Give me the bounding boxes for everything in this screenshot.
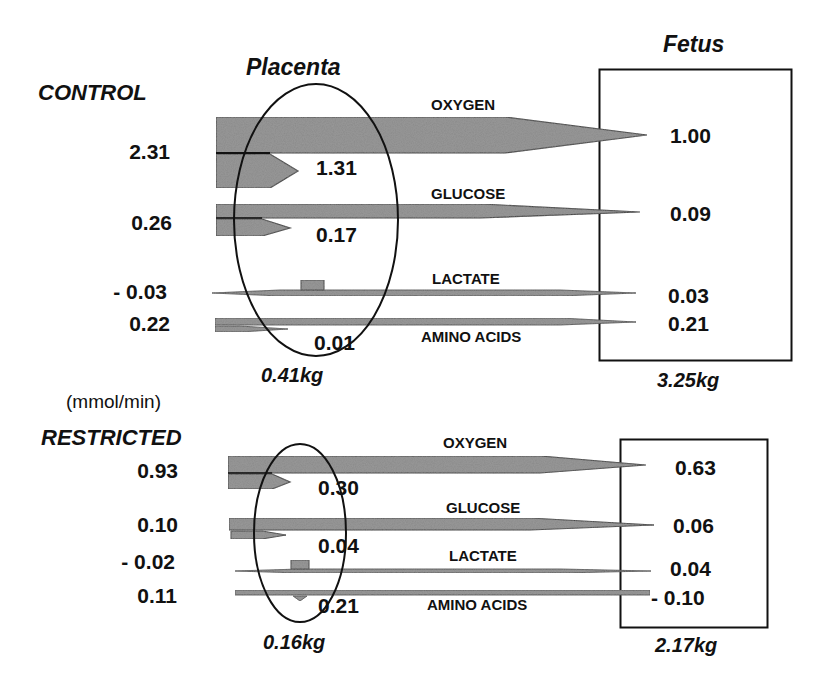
restricted-glucose-arrow [229,518,654,539]
restricted-uterine-lactate: - 0.02 [121,550,175,573]
restricted-fetus-weight: 2.17kg [654,634,717,656]
control-placental-amino-acids: 0.01 [314,331,355,354]
control-substance-glucose: GLUCOSE [431,185,505,202]
restricted-label: RESTRICTED [41,425,182,450]
control-substance-oxygen: OXYGEN [431,96,495,113]
restricted-fetal-oxygen: 0.63 [675,456,716,479]
restricted-substance-lactate: LACTATE [449,547,517,564]
control-fetal-lactate: 0.03 [668,284,709,307]
restricted-lactate-arrow [235,560,651,573]
control-label: CONTROL [38,80,147,105]
control-uterine-amino-acids: 0.22 [129,312,170,335]
restricted-fetal-amino-acids: - 0.10 [651,586,705,609]
restricted-fetal-lactate: 0.04 [670,557,711,580]
control-placental-oxygen: 1.31 [316,156,357,179]
restricted-placental-glucose: 0.04 [318,534,359,557]
restricted-uterine-oxygen: 0.93 [137,459,178,482]
control-uterine-lactate: - 0.03 [113,280,167,303]
restricted-substance-oxygen: OXYGEN [443,434,507,451]
control-lactate-arrow [212,280,636,296]
control-substance-lactate: LACTATE [432,270,500,287]
control-fetus-weight: 3.25kg [657,369,719,391]
uteroplacental-flux-diagram: Placenta Fetus CONTROL OX [0,0,817,686]
restricted-placenta-weight: 0.16kg [263,631,325,653]
restricted-placental-amino-acids: 0.21 [318,594,359,617]
control-fetal-oxygen: 1.00 [670,124,711,147]
control-placenta-weight: 0.41kg [261,364,323,386]
restricted-oxygen-arrow [228,456,646,489]
control-fetal-amino-acids: 0.21 [668,312,709,335]
control-oxygen-arrow [216,117,647,188]
control-uterine-glucose: 0.26 [131,211,172,234]
control-glucose-arrow [216,204,640,236]
control-substance-amino-acids: AMINO ACIDS [421,328,521,345]
restricted-substance-amino-acids: AMINO ACIDS [427,596,527,613]
placenta-header: Placenta [246,54,341,80]
control-fetal-glucose: 0.09 [670,202,711,225]
units-label: (mmol/min) [66,391,161,412]
restricted-uterine-glucose: 0.10 [137,513,178,536]
restricted-fetal-glucose: 0.06 [673,514,714,537]
control-panel: CONTROL OXYGEN GLUCOSE LACTATE [38,70,792,392]
control-uterine-oxygen: 2.31 [129,140,170,163]
restricted-panel: RESTRICTED OXYGEN GLUCOSE LACTATE [41,425,768,656]
restricted-substance-glucose: GLUCOSE [446,499,520,516]
restricted-uterine-amino-acids: 0.11 [137,584,177,607]
fetus-header: Fetus [663,31,724,57]
restricted-placental-oxygen: 0.30 [318,476,359,499]
control-placental-glucose: 0.17 [316,223,357,246]
